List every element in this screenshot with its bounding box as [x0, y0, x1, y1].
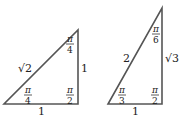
angle-top-left-triangle: π 4 — [66, 34, 74, 55]
angle-numerator: π — [151, 85, 159, 95]
angle-numerator: π — [118, 85, 126, 95]
special-triangles-diagram: √2 1 1 π 4 π 4 π 2 2 √3 1 π 6 π — [0, 0, 184, 116]
angle-denominator: 4 — [25, 96, 31, 106]
base-label-right: 1 — [132, 105, 139, 116]
angle-numerator: π — [66, 34, 74, 44]
angle-right-left-triangle: π 2 — [66, 85, 74, 106]
base-label-left: 1 — [38, 105, 45, 116]
angle-bottom-left-right-triangle: π 3 — [118, 85, 126, 106]
angle-numerator: π — [66, 85, 74, 95]
angle-numerator: π — [24, 85, 32, 95]
angle-denominator: 3 — [119, 96, 125, 106]
angle-denominator: 2 — [67, 96, 73, 106]
angle-right-right-triangle: π 2 — [151, 85, 159, 106]
triangle-45-45-90: √2 1 1 π 4 π 4 π 2 — [4, 30, 88, 116]
angle-top-right-triangle: π 6 — [152, 24, 160, 45]
hypotenuse-label-right: 2 — [123, 52, 130, 65]
angle-denominator: 4 — [67, 45, 73, 55]
hypotenuse-label-left: √2 — [18, 62, 32, 75]
angle-numerator: π — [152, 24, 160, 34]
vertical-side-label-right: √3 — [165, 52, 179, 65]
angle-denominator: 6 — [153, 35, 159, 45]
vertical-side-label-left: 1 — [81, 62, 88, 75]
angle-bottom-left-left-triangle: π 4 — [24, 85, 32, 106]
triangle-30-60-90: 2 √3 1 π 6 π 3 π 2 — [108, 8, 179, 116]
angle-denominator: 2 — [152, 96, 158, 106]
